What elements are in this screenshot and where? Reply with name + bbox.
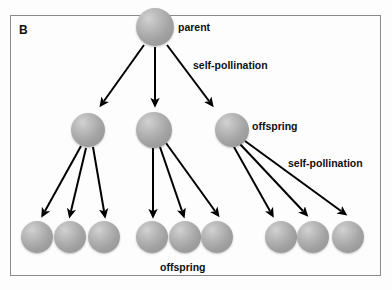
arrow-p1-to-f1a bbox=[104, 45, 144, 101]
sphere-offspring-f2e bbox=[169, 221, 201, 253]
arrow-f1a-to-f2c bbox=[93, 147, 104, 211]
label-offspring-bottom: offspring bbox=[160, 262, 206, 273]
sphere-offspring-f2h bbox=[297, 221, 329, 253]
sphere-offspring-f2g bbox=[265, 221, 297, 253]
sphere-offspring-f2a bbox=[21, 221, 53, 253]
arrow-p1-to-f1c bbox=[167, 45, 209, 101]
sphere-parent-p1 bbox=[136, 8, 174, 46]
arrow-f1b-to-f2e bbox=[160, 147, 182, 211]
sphere-offspring-f2c bbox=[88, 221, 120, 253]
panel-label: B bbox=[19, 24, 28, 36]
label-offspring-middle: offspring bbox=[252, 121, 298, 132]
sphere-offspring-f2i bbox=[332, 221, 364, 253]
sphere-offspring-f2d bbox=[136, 221, 168, 253]
figure-panel-b: B parent self-pollination offspring self… bbox=[0, 0, 392, 290]
sphere-offspring-f1c bbox=[215, 113, 249, 147]
arrow-f1a-to-f2b bbox=[71, 148, 86, 211]
label-self-pollination-right: self-pollination bbox=[288, 158, 363, 169]
arrow-f1a-to-f2a bbox=[45, 146, 81, 211]
label-self-pollination-top: self-pollination bbox=[193, 60, 268, 71]
label-parent: parent bbox=[178, 22, 210, 33]
sphere-offspring-f2f bbox=[201, 221, 233, 253]
arrow-f1b-to-f2f bbox=[166, 143, 215, 211]
sphere-offspring-f1a bbox=[71, 113, 105, 147]
sphere-offspring-f1b bbox=[136, 112, 172, 148]
sphere-offspring-f2b bbox=[54, 221, 86, 253]
